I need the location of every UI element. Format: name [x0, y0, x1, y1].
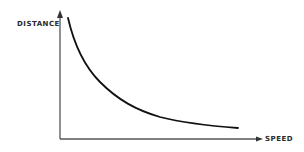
- y-axis-label: DISTANCE: [17, 21, 60, 28]
- x-axis-label: SPEED: [265, 136, 293, 143]
- x-axis-arrow-icon: [256, 137, 263, 142]
- y-axis-arrow-icon: [57, 10, 63, 18]
- distance-speed-curve: [68, 18, 238, 128]
- diagram: DISTANCE SPEED: [0, 0, 304, 152]
